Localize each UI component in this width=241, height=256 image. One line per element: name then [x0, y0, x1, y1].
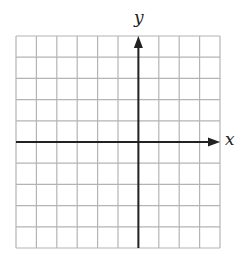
y-axis-arrow-icon	[134, 36, 143, 48]
x-axis-arrow-icon	[208, 138, 220, 147]
y-axis-label: y	[134, 9, 144, 26]
x-axis-label: x	[225, 131, 235, 148]
coordinate-grid	[0, 0, 241, 256]
